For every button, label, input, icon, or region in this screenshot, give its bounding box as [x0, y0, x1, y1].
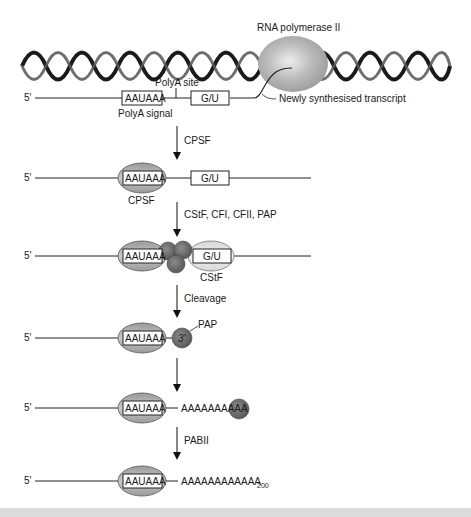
pap-factor	[167, 255, 185, 273]
step-label-pabii: PABII	[184, 435, 209, 446]
signal-box-text: AAUAAA	[125, 251, 166, 262]
cstf-label: CStF	[200, 272, 223, 283]
polya-tail: AAAAAAAAAAAA	[181, 476, 261, 487]
pap-label: PAP	[198, 319, 218, 330]
transcript-label: Newly synthesised transcript	[279, 93, 406, 104]
five-prime-label: 5'	[24, 402, 32, 413]
signal-box-text: AAUAAA	[125, 403, 166, 414]
polya-site-label: PolyA site	[155, 77, 199, 88]
polya-signal-label: PolyA signal	[118, 108, 172, 119]
row-cleaved: 5' AAUAAA 3' PAP	[24, 319, 218, 353]
tail-length-subscript: 200	[257, 482, 269, 489]
row-full-complex: 5' AAUAAA G/U CStF	[24, 241, 311, 283]
signal-box-text: AAUAAA	[125, 333, 166, 344]
row-polyadenylating: 5' AAUAAA AAAAAAAAAA	[24, 393, 249, 423]
rna-polymerase-blob	[258, 36, 328, 92]
five-prime-label: 5'	[24, 250, 32, 261]
gu-box-text: G/U	[201, 93, 219, 104]
signal-box-text: AAUAAA	[125, 173, 166, 184]
transcript-label-leader	[262, 94, 276, 99]
row-cpsf-bound: 5' AAUAAA G/U CPSF	[24, 163, 311, 206]
polymerase-label: RNA polymerase II	[257, 22, 340, 33]
step-label-cleavage: Cleavage	[184, 293, 227, 304]
five-prime-label: 5'	[24, 475, 32, 486]
dna-helix-icon	[22, 53, 450, 80]
step-label-cleavage-factors: CStF, CFI, CFII, PAP	[184, 209, 277, 220]
step-label-cpsf: CPSF	[184, 135, 211, 146]
row-initial-transcript: 5' AAUAAA PolyA site G/U PolyA signal	[24, 77, 229, 119]
footer-band	[0, 508, 471, 517]
five-prime-label: 5'	[24, 332, 32, 343]
three-prime-label: 3'	[178, 333, 187, 344]
gu-box-text: G/U	[201, 173, 219, 184]
signal-box-text: AAUAAA	[125, 476, 166, 487]
polya-tail: AAAAAAAAAA	[181, 403, 248, 414]
cpsf-label: CPSF	[128, 195, 155, 206]
five-prime-label: 5'	[24, 172, 32, 183]
five-prime-label: 5'	[24, 92, 32, 103]
row-final-polya: 5' AAUAAA AAAAAAAAAAAA 200	[24, 466, 269, 496]
polyadenylation-diagram: RNA polymerase II Newly synthesised tran…	[0, 0, 471, 517]
gu-box-text: G/U	[203, 251, 221, 262]
signal-box-text: AAUAAA	[125, 93, 166, 104]
